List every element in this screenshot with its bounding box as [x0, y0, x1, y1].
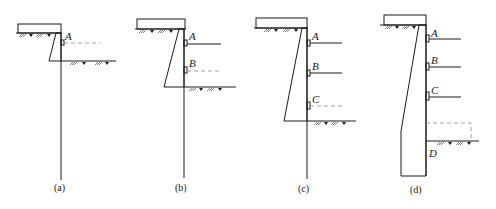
- anchor-plate-c: [307, 102, 310, 109]
- support-label-a: A: [311, 30, 319, 42]
- water-level-icon: [412, 26, 416, 29]
- anchor-plate-b: [307, 70, 310, 76]
- surcharge-load: [137, 19, 185, 29]
- water-level-icon: [199, 88, 203, 91]
- anchor-plate-b: [426, 63, 429, 70]
- surcharge-load: [256, 18, 307, 28]
- ground-hatch: [19, 34, 51, 37]
- water-level-icon: [342, 122, 346, 125]
- excavation-hatch: [189, 88, 222, 91]
- water-level-icon: [82, 62, 86, 65]
- support-label-a: A: [188, 30, 196, 42]
- ground-hatch: [139, 30, 173, 33]
- support-label-c: C: [431, 84, 439, 96]
- anchor-plate-a: [426, 35, 429, 42]
- earth-pressure-diagram: [164, 29, 184, 87]
- support-label-b: B: [312, 60, 319, 72]
- caption-d: (d): [410, 184, 422, 196]
- anchor-plate-c: [426, 92, 429, 100]
- caption-b: (b): [175, 182, 187, 194]
- water-level-icon: [395, 26, 399, 29]
- excavation-hatch: [437, 142, 471, 145]
- excavation-hatch: [70, 62, 109, 65]
- surcharge-load: [18, 24, 61, 33]
- support-label-a: A: [430, 27, 438, 39]
- diagram-canvas: A (a) A B: [0, 0, 496, 209]
- earth-pressure-diagram: [49, 33, 61, 61]
- surcharge-load: [384, 15, 426, 25]
- support-label-b: B: [189, 57, 196, 69]
- anchor-plate-b: [184, 67, 187, 73]
- ground-hatch: [264, 29, 298, 32]
- support-label-b: B: [431, 54, 438, 66]
- panel-c: A B C (c): [254, 18, 356, 195]
- anchor-plate-a: [307, 40, 310, 46]
- water-level-icon: [294, 29, 298, 32]
- panel-d: A B C D (d): [380, 15, 479, 196]
- previous-excavation-outline: [426, 123, 471, 141]
- water-level-icon: [105, 62, 109, 65]
- earth-pressure-diagram: [401, 25, 426, 176]
- caption-a: (a): [54, 182, 65, 194]
- panel-b: A B (b): [135, 19, 236, 194]
- support-label-c: C: [312, 93, 320, 105]
- water-level-icon: [150, 30, 154, 33]
- earth-pressure-diagram: [284, 28, 307, 121]
- caption-c: (c): [298, 183, 309, 195]
- water-level-icon: [29, 34, 33, 37]
- excavation-hatch: [314, 122, 346, 125]
- support-label-a: A: [64, 30, 72, 42]
- water-level-icon: [169, 30, 173, 33]
- anchor-plate-a: [184, 40, 187, 46]
- water-level-icon: [448, 142, 452, 145]
- water-level-icon: [274, 29, 278, 32]
- water-level-icon: [324, 122, 328, 125]
- anchor-plate-a: [61, 40, 64, 45]
- panel-a: A (a): [16, 24, 116, 194]
- water-level-icon: [47, 34, 51, 37]
- water-level-icon: [467, 142, 471, 145]
- water-level-icon: [218, 88, 222, 91]
- excavation-label-d: D: [428, 147, 437, 159]
- ground-hatch: [385, 26, 416, 29]
